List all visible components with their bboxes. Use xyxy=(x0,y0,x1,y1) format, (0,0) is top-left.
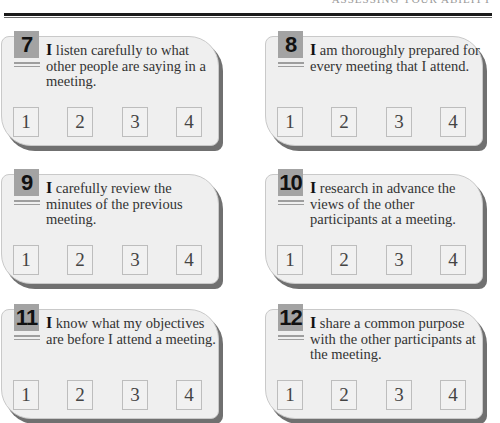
question-number-badge: 10 xyxy=(278,169,303,196)
rating-option-4[interactable]: 4 xyxy=(176,107,202,137)
statement-text: know what my objectives are before I att… xyxy=(46,315,216,347)
question-card-8: 8 I am thoroughly prepared for every mee… xyxy=(265,36,483,148)
question-number-badge: 12 xyxy=(278,304,303,331)
rating-option-2[interactable]: 2 xyxy=(331,107,357,137)
rating-option-3[interactable]: 3 xyxy=(386,245,412,275)
rating-option-2[interactable]: 2 xyxy=(331,245,357,275)
badge-underline-thin xyxy=(14,66,40,67)
rating-scale: 1 2 3 4 xyxy=(277,380,473,408)
rating-option-2[interactable]: 2 xyxy=(67,245,93,275)
rating-option-2[interactable]: 2 xyxy=(331,380,357,410)
question-statement: I research in advance the views of the o… xyxy=(310,180,480,228)
rating-option-1[interactable]: 1 xyxy=(277,380,303,410)
badge-underline xyxy=(278,335,304,337)
question-card-body: 12 I share a common purpose with the oth… xyxy=(265,309,483,419)
question-card-body: 11 I know what my objectives are before … xyxy=(1,309,219,419)
rating-scale: 1 2 3 4 xyxy=(13,107,209,135)
badge-underline xyxy=(14,200,40,202)
question-card-12: 12 I share a common purpose with the oth… xyxy=(265,309,483,421)
rating-option-1[interactable]: 1 xyxy=(13,245,39,275)
question-card-9: 9 I carefully review the minutes of the … xyxy=(1,174,219,286)
question-statement: I know what my objectives are before I a… xyxy=(46,315,216,347)
question-statement: I am thoroughly prepared for every meeti… xyxy=(310,42,480,74)
question-card-body: 10 I research in advance the views of th… xyxy=(265,174,483,284)
rating-scale: 1 2 3 4 xyxy=(13,380,209,408)
rating-option-2[interactable]: 2 xyxy=(67,380,93,410)
rating-option-3[interactable]: 3 xyxy=(122,380,148,410)
rating-option-2[interactable]: 2 xyxy=(67,107,93,137)
question-card-body: 7 I listen carefully to what other peopl… xyxy=(1,36,219,146)
rating-option-4[interactable]: 4 xyxy=(176,380,202,410)
statement-text: research in advance the views of the oth… xyxy=(310,180,456,227)
rating-option-3[interactable]: 3 xyxy=(386,107,412,137)
question-card-10: 10 I research in advance the views of th… xyxy=(265,174,483,286)
header-divider-thin xyxy=(4,17,492,18)
badge-underline-thin xyxy=(278,339,304,340)
question-card-11: 11 I know what my objectives are before … xyxy=(1,309,219,421)
header-title: ASSESSING YOUR ABILITY xyxy=(332,0,492,5)
statement-text: listen carefully to what other people ar… xyxy=(46,42,206,89)
statement-text: carefully review the minutes of the prev… xyxy=(46,180,183,227)
badge-underline xyxy=(14,62,40,64)
rating-option-4[interactable]: 4 xyxy=(440,107,466,137)
badge-underline xyxy=(14,335,40,337)
rating-scale: 1 2 3 4 xyxy=(277,245,473,273)
badge-underline-thin xyxy=(14,339,40,340)
badge-underline xyxy=(278,200,304,202)
question-number-badge: 11 xyxy=(14,304,39,331)
question-card-7: 7 I listen carefully to what other peopl… xyxy=(1,36,219,148)
question-number-badge: 7 xyxy=(14,31,39,58)
badge-underline xyxy=(278,62,304,64)
header-divider xyxy=(4,13,492,16)
badge-underline-thin xyxy=(14,204,40,205)
rating-scale: 1 2 3 4 xyxy=(277,107,473,135)
question-card-body: 8 I am thoroughly prepared for every mee… xyxy=(265,36,483,146)
question-statement: I share a common purpose with the other … xyxy=(310,315,480,363)
rating-option-1[interactable]: 1 xyxy=(13,107,39,137)
rating-option-4[interactable]: 4 xyxy=(176,245,202,275)
question-number-badge: 9 xyxy=(14,169,39,196)
rating-option-3[interactable]: 3 xyxy=(386,380,412,410)
question-card-body: 9 I carefully review the minutes of the … xyxy=(1,174,219,284)
rating-option-1[interactable]: 1 xyxy=(277,107,303,137)
rating-option-3[interactable]: 3 xyxy=(122,107,148,137)
rating-option-1[interactable]: 1 xyxy=(13,380,39,410)
rating-option-1[interactable]: 1 xyxy=(277,245,303,275)
badge-underline-thin xyxy=(278,204,304,205)
question-statement: I listen carefully to what other people … xyxy=(46,42,216,90)
question-statement: I carefully review the minutes of the pr… xyxy=(46,180,216,228)
rating-option-3[interactable]: 3 xyxy=(122,245,148,275)
rating-scale: 1 2 3 4 xyxy=(13,245,209,273)
statement-text: am thoroughly prepared for every meeting… xyxy=(310,42,480,74)
question-number-badge: 8 xyxy=(278,31,303,58)
badge-underline-thin xyxy=(278,66,304,67)
rating-option-4[interactable]: 4 xyxy=(440,380,466,410)
rating-option-4[interactable]: 4 xyxy=(440,245,466,275)
statement-text: share a common purpose with the other pa… xyxy=(310,315,476,362)
